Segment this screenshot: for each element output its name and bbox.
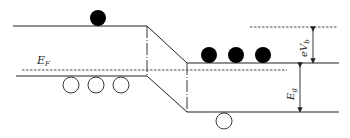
conduction-band-bend — [147, 26, 187, 63]
hole-left-1 — [63, 77, 79, 93]
energy-band-diagram: EF eVb Eg — [0, 0, 350, 138]
band-gap-label: Eg — [285, 88, 298, 101]
hole-right — [216, 113, 232, 129]
electron-left — [90, 10, 106, 26]
electron-right-1 — [201, 47, 217, 63]
hole-left-2 — [88, 77, 104, 93]
electron-right-2 — [228, 47, 244, 63]
hole-left-3 — [113, 77, 129, 93]
valence-band-bend — [147, 76, 187, 112]
electron-right-3 — [255, 47, 271, 63]
fermi-level-label: EF — [36, 54, 51, 68]
barrier-label: eVb — [298, 39, 311, 57]
